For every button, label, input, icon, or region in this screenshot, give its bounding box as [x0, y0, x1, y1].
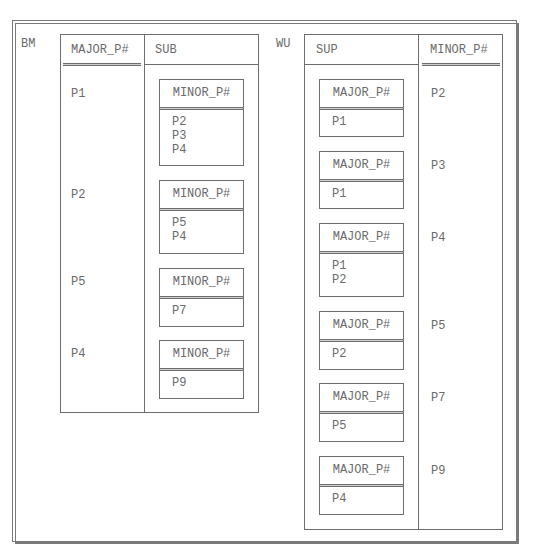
sub-nested-value: P4 — [172, 143, 186, 157]
sup-nested-key-underline — [320, 179, 403, 182]
sup-nested-key-underline — [320, 251, 403, 254]
sub-nested-relation: MINOR_P# P5 P4 — [159, 180, 244, 254]
sup-nested-key-underline — [320, 339, 403, 342]
sub-nested-relation: MINOR_P# P7 — [159, 268, 244, 327]
sup-nested-relation: MAJOR_P# P4 — [319, 456, 404, 515]
sub-nested-value: P9 — [172, 376, 186, 390]
sup-nested-value: P2 — [332, 273, 346, 287]
sup-nested-relation: MAJOR_P# P1 P2 — [319, 223, 404, 297]
sup-nested-value: P1 — [332, 259, 346, 273]
wu-minor-value: P3 — [431, 159, 445, 173]
sub-nested-relation: MINOR_P# P9 — [159, 340, 244, 399]
sup-nested-value: P2 — [332, 347, 346, 361]
sub-nested-relation: MINOR_P# P2 P3 P4 — [159, 79, 244, 166]
sup-nested-header: MAJOR_P# — [320, 152, 403, 179]
wu-header-rule — [304, 64, 419, 65]
sub-nested-value: P4 — [172, 230, 186, 244]
bm-major-value: P2 — [71, 188, 85, 202]
sup-nested-value: P5 — [332, 419, 346, 433]
wu-minor-value: P7 — [431, 391, 445, 405]
sup-nested-key-underline — [320, 107, 403, 110]
sub-nested-key-underline — [160, 208, 243, 211]
sup-nested-relation: MAJOR_P# P1 — [319, 151, 404, 209]
sub-nested-header: MINOR_P# — [160, 80, 243, 107]
bm-major-value: P4 — [71, 347, 85, 361]
bm-column-divider — [144, 34, 145, 413]
sup-nested-header: MAJOR_P# — [320, 384, 403, 411]
bm-major-value: P1 — [71, 87, 85, 101]
wu-key-double-underline — [422, 63, 500, 66]
sub-nested-header: MINOR_P# — [160, 341, 243, 368]
bm-header-sub: SUB — [155, 43, 177, 57]
bm-major-value: P5 — [71, 275, 85, 289]
sup-nested-value: P1 — [332, 187, 346, 201]
sup-nested-value: P4 — [332, 492, 346, 506]
bm-header-rule — [144, 64, 259, 65]
sup-nested-relation: MAJOR_P# P5 — [319, 383, 404, 442]
sup-nested-header: MAJOR_P# — [320, 224, 403, 251]
sub-nested-value: P5 — [172, 216, 186, 230]
wu-minor-value: P4 — [431, 231, 445, 245]
wu-header-sup: SUP — [316, 43, 338, 57]
wu-minor-value: P2 — [431, 87, 445, 101]
bm-key-double-underline — [63, 63, 141, 66]
sub-nested-key-underline — [160, 368, 243, 371]
relation-name-bm: BM — [21, 37, 35, 51]
sup-nested-relation: MAJOR_P# P2 — [319, 311, 404, 370]
sup-nested-key-underline — [320, 411, 403, 414]
sup-nested-header: MAJOR_P# — [320, 312, 403, 339]
bm-header-major-p: MAJOR_P# — [71, 43, 129, 57]
sub-nested-value: P3 — [172, 129, 186, 143]
sub-nested-key-underline — [160, 296, 243, 299]
relation-name-wu: WU — [276, 37, 290, 51]
sub-nested-key-underline — [160, 107, 243, 110]
sub-nested-header: MINOR_P# — [160, 269, 243, 296]
wu-minor-value: P5 — [431, 319, 445, 333]
sub-nested-header: MINOR_P# — [160, 181, 243, 208]
wu-column-divider — [418, 34, 419, 530]
sub-nested-value: P2 — [172, 115, 186, 129]
sub-nested-value: P7 — [172, 304, 186, 318]
sup-nested-header: MAJOR_P# — [320, 80, 403, 107]
wu-minor-value: P9 — [431, 464, 445, 478]
sup-nested-header: MAJOR_P# — [320, 457, 403, 484]
sup-nested-value: P1 — [332, 115, 346, 129]
sup-nested-relation: MAJOR_P# P1 — [319, 79, 404, 137]
wu-header-minor-p: MINOR_P# — [430, 43, 488, 57]
sup-nested-key-underline — [320, 484, 403, 487]
